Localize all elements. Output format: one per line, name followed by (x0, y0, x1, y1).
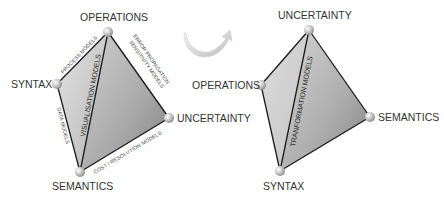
left-node-operations-icon (103, 27, 113, 37)
right-label-syntax: SYNTAX (263, 180, 304, 192)
right-node-syntax-icon (275, 166, 285, 176)
right-node-semantics-icon (365, 112, 375, 122)
left-label-syntax: SYNTAX (11, 78, 52, 90)
curved-arrow-icon (184, 30, 232, 57)
right-label-operations: OPERATIONS (192, 79, 260, 91)
right-label-uncertainty: UNCERTAINTY (278, 9, 352, 21)
right-label-semantics: SEMANTICS (378, 111, 439, 123)
left-tetrahedron: OPERATIONS SYNTAX UNCERTAINTY SEMANTICS … (11, 11, 251, 192)
left-label-semantics: SEMANTICS (52, 180, 113, 192)
left-label-operations: OPERATIONS (80, 11, 148, 23)
left-node-semantics-icon (75, 167, 85, 177)
left-node-syntax-icon (52, 79, 62, 89)
tetrahedra-diagram: OPERATIONS SYNTAX UNCERTAINTY SEMANTICS … (0, 0, 444, 203)
left-node-uncertainty-icon (164, 113, 174, 123)
right-node-uncertainty-icon (304, 25, 314, 35)
left-label-uncertainty: UNCERTAINTY (177, 112, 251, 124)
